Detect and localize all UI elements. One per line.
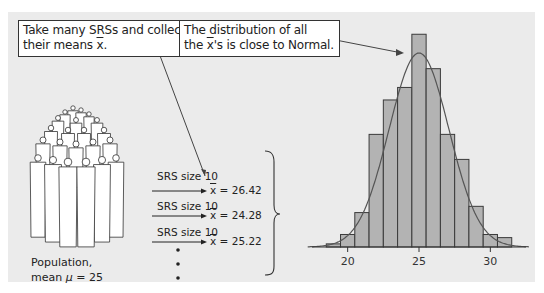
histogram-bar xyxy=(412,34,426,247)
text: . xyxy=(103,38,107,52)
text: 's is close to Normal. xyxy=(214,38,334,52)
histogram-bar xyxy=(440,134,454,247)
sample-mean: x = 24.28 xyxy=(210,209,262,221)
x-bar-symbol: x xyxy=(210,184,216,196)
callout-distribution-normal: The distribution of all the x's is close… xyxy=(179,20,340,57)
arrowhead-icon xyxy=(396,49,404,56)
x-tick-label: 25 xyxy=(412,255,426,268)
sample-mean: x = 25.22 xyxy=(210,235,262,247)
text: = 25 xyxy=(73,271,103,284)
sample-label: SRS size 10 xyxy=(157,170,218,182)
population-label-line2: mean μ = 25 xyxy=(31,270,103,285)
arrowhead-icon xyxy=(201,189,207,194)
curly-brace xyxy=(265,151,280,275)
sample-mean-value: = 25.22 xyxy=(220,235,262,247)
arrowhead-icon xyxy=(201,214,207,219)
x-bar-symbol: x xyxy=(207,38,214,52)
sample-mean-value: = 26.42 xyxy=(220,184,262,196)
text: mean xyxy=(31,271,66,284)
x-bar-symbol: x xyxy=(210,235,216,247)
histogram-bar xyxy=(369,134,383,247)
arrow-left-callout xyxy=(153,37,205,176)
callout-line: the x's is close to Normal. xyxy=(184,38,334,53)
histogram-bar xyxy=(398,87,412,247)
histogram-bar xyxy=(355,213,369,247)
arrowhead-icon xyxy=(201,240,207,245)
population-label-line1: Population, xyxy=(31,255,103,270)
histogram-bar xyxy=(455,159,469,247)
sample-label: SRS size 10 xyxy=(157,226,218,238)
text: their means xyxy=(23,38,96,52)
x-tick-label: 30 xyxy=(483,255,497,268)
sample-label: SRS size 10 xyxy=(157,200,218,212)
callout-take-many-srss: Take many SRSs and collect their means x… xyxy=(18,20,191,57)
callout-line: their means x. xyxy=(23,38,185,53)
x-bar-symbol: x xyxy=(210,209,216,221)
continuation-dots xyxy=(176,248,180,280)
histogram-bar xyxy=(469,206,483,247)
mu-symbol: μ xyxy=(66,271,73,284)
histogram-bar xyxy=(426,69,440,247)
text: the xyxy=(184,38,207,52)
callout-line: Take many SRSs and collect xyxy=(23,23,185,38)
callout-line: The distribution of all xyxy=(184,23,334,38)
x-tick-label: 20 xyxy=(341,255,355,268)
sample-mean-value: = 24.28 xyxy=(220,209,262,221)
population-label: Population, mean μ = 25 xyxy=(31,255,103,285)
sample-mean: x = 26.42 xyxy=(210,184,262,196)
